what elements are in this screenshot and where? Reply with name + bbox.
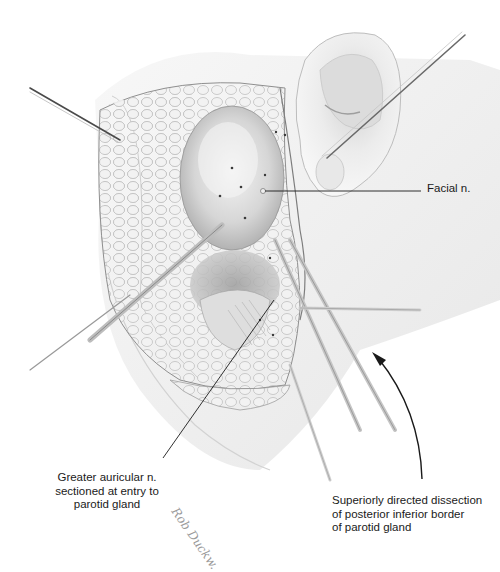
label-line: Facial n. [427, 182, 470, 196]
facial-nerve-trunk [261, 189, 266, 194]
dissection-direction-label: Superiorly directed dissection of poster… [332, 494, 482, 535]
facial-nerve-label: Facial n. [427, 182, 470, 196]
label-line: Greater auricular n. [40, 471, 174, 485]
greater-auricular-nerve-label: Greater auricular n. sectioned at entry … [40, 471, 174, 512]
label-line: of parotid gland [332, 521, 482, 535]
label-line: parotid gland [40, 498, 174, 512]
label-line: sectioned at entry to [40, 485, 174, 499]
dissection-direction-arrow [372, 352, 422, 479]
label-line: Superiorly directed dissection [332, 494, 482, 508]
label-line: of posterior inferior border [332, 508, 482, 522]
